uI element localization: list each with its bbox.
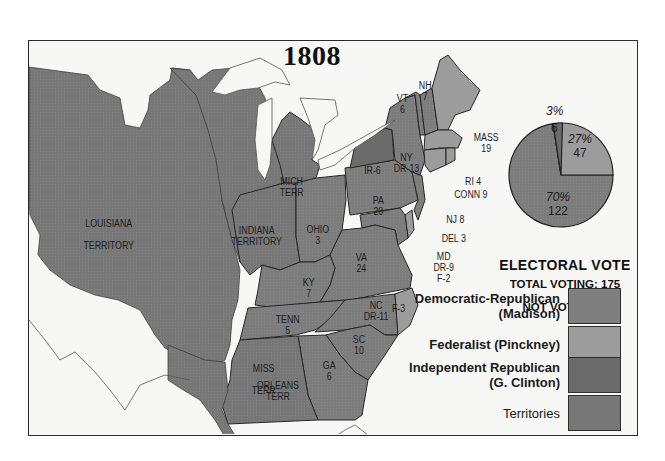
- label-pa: PA 20: [373, 195, 384, 217]
- label-ri: RI 4: [465, 176, 481, 187]
- legend-territories: Territories: [503, 395, 621, 431]
- label-orleans: ORLEANS TERR: [257, 380, 299, 402]
- label-va: VA 24: [356, 252, 367, 274]
- map-title: 1808: [283, 40, 341, 72]
- label-ga: GA 6: [323, 360, 336, 382]
- label-ny-ir: IR-6: [364, 165, 381, 176]
- pie-label-fed: 27%47: [568, 132, 592, 160]
- region-mass-maine: [432, 55, 480, 130]
- label-nj: NJ 8: [446, 214, 464, 225]
- label-vt: VT 6: [397, 93, 408, 115]
- legend-swatch-ir: [568, 357, 621, 393]
- label-ohio: OHIO 3: [307, 224, 329, 246]
- label-mich: MICH TERR: [280, 176, 304, 198]
- florida-coastline: [258, 425, 380, 460]
- label-del: DEL 3: [442, 233, 466, 244]
- label-ny: NY DR-13: [394, 152, 419, 174]
- label-conn: CONN 9: [454, 189, 487, 200]
- pie-label-ir-votes: 6: [551, 121, 558, 135]
- label-nc-f: F-3: [392, 303, 405, 314]
- legend-democratic-republican: Democratic-Republican(Madison): [415, 288, 621, 324]
- pie-label-dr: 70%122: [546, 190, 570, 218]
- region-ri: [446, 148, 455, 165]
- label-nh: NH 7: [419, 80, 432, 102]
- label-indiana: INDIANA TERRITORY: [231, 225, 282, 247]
- legend-swatch-dr: [568, 288, 621, 324]
- label-md: MD DR-9 F-2: [433, 251, 454, 284]
- pie-label-ir-percent: 3%: [546, 104, 563, 118]
- legend-label: Territories: [503, 406, 560, 421]
- label-nc: NC DR-11: [364, 300, 389, 322]
- region-mass: [424, 130, 462, 150]
- label-sc: SC 10: [353, 334, 365, 356]
- label-tenn: TENN 5: [276, 314, 300, 336]
- electoral-vote-title: ELECTORAL VOTE: [495, 257, 635, 273]
- legend-label: Federalist (Pinckney): [429, 337, 560, 352]
- region-conn: [424, 148, 446, 172]
- label-louisiana: LOUISIANA TERRITORY: [83, 218, 134, 251]
- legend-swatch-terr: [568, 395, 621, 431]
- legend-independent-republican: Independent Republican(G. Clinton): [409, 357, 621, 393]
- label-mass: MASS 19: [474, 132, 499, 154]
- label-ky: KY 7: [303, 277, 315, 299]
- legend-label: Independent Republican(G. Clinton): [409, 360, 560, 390]
- legend-label: Democratic-Republican(Madison): [415, 291, 560, 321]
- lake-michigan: [255, 98, 272, 180]
